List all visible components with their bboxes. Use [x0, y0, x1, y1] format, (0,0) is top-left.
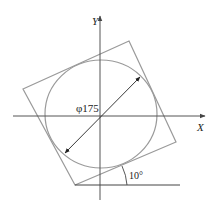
- diagram-canvas: Y X φ175 10°: [0, 0, 218, 212]
- diagram-svg: Y X φ175 10°: [0, 0, 218, 212]
- y-axis-label: Y: [92, 15, 100, 27]
- diameter-label: φ175: [76, 102, 99, 114]
- diameter-dimension-line: [65, 77, 140, 153]
- rotation-angle-label: 10°: [129, 170, 143, 181]
- inscribed-circle: [45, 60, 157, 168]
- x-axis-label: X: [196, 121, 205, 133]
- angle-arc: [122, 166, 127, 185]
